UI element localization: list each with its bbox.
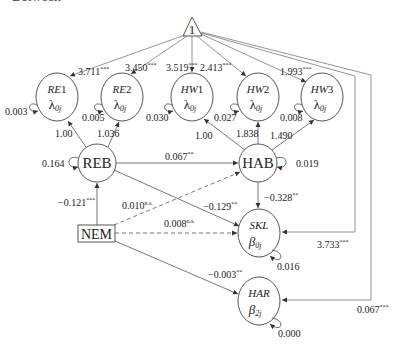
svg-text:HW3: HW3 xyxy=(310,83,334,95)
factor-loading-labels: 1.00 1.036 1.00 1.838 1.490 xyxy=(55,128,293,141)
indicator-re2: RE2 λ0j xyxy=(101,73,143,121)
observed-nem: NEM xyxy=(78,225,115,242)
sem-path-diagram: 1 3.711*** 3.450*** 3.519*** 2.413*** 1.… xyxy=(0,0,397,344)
svg-text:RE1: RE1 xyxy=(47,83,67,95)
svg-text:−0.129**: −0.129** xyxy=(203,201,237,212)
svg-text:0.008n.s.: 0.008n.s. xyxy=(164,218,195,229)
svg-text:−0.121***: −0.121*** xyxy=(58,197,95,208)
har-variance-label: 0.000 xyxy=(278,328,301,339)
svg-text:NEM: NEM xyxy=(81,227,113,242)
svg-text:HW1: HW1 xyxy=(180,83,204,95)
outcome-skl: SKL β0j xyxy=(238,209,280,257)
indicator-hw2: HW2 λ0j xyxy=(237,73,279,121)
svg-text:3.519***: 3.519*** xyxy=(166,62,198,73)
svg-text:HAR: HAR xyxy=(247,287,270,299)
svg-text:0.067***: 0.067*** xyxy=(357,304,389,315)
svg-text:0.067**: 0.067** xyxy=(165,151,194,162)
svg-text:0.008: 0.008 xyxy=(280,112,303,123)
reb-variance-label: 0.164 xyxy=(42,158,65,169)
latent-reb: REB xyxy=(78,144,116,182)
svg-text:SKL: SKL xyxy=(250,219,269,231)
svg-text:1.993***: 1.993*** xyxy=(280,66,312,77)
indicator-hw3: HW3 λ0j xyxy=(301,73,343,121)
svg-text:1.490: 1.490 xyxy=(270,130,293,141)
svg-text:0.027: 0.027 xyxy=(214,112,237,123)
svg-text:1: 1 xyxy=(189,22,196,37)
svg-text:1.00: 1.00 xyxy=(195,130,213,141)
intercept-triangle: 1 xyxy=(183,17,202,37)
svg-text:0.010n.s.: 0.010n.s. xyxy=(122,200,153,211)
svg-text:HW2: HW2 xyxy=(246,83,270,95)
svg-text:0.005: 0.005 xyxy=(82,112,105,123)
reb-variance-loop xyxy=(69,157,78,167)
svg-text:−0.328**: −0.328** xyxy=(264,192,298,203)
svg-text:2.413***: 2.413*** xyxy=(200,62,232,73)
svg-text:−0.003**: −0.003** xyxy=(208,269,242,280)
svg-text:1.838: 1.838 xyxy=(236,128,259,139)
svg-text:3.733***: 3.733*** xyxy=(317,239,349,250)
svg-text:REB: REB xyxy=(82,155,111,171)
svg-text:0.003: 0.003 xyxy=(5,106,28,117)
svg-text:1.00: 1.00 xyxy=(55,128,73,139)
svg-text:3.711***: 3.711*** xyxy=(78,66,109,77)
indicator-re1: RE1 λ0j xyxy=(36,73,78,121)
hab-variance-loop xyxy=(277,157,286,167)
svg-text:HAB: HAB xyxy=(242,155,274,171)
indicator-hw1: HW1 λ0j xyxy=(171,73,213,121)
hab-variance-label: 0.019 xyxy=(296,158,319,169)
outcome-har: HAR β2j xyxy=(238,277,280,325)
svg-text:3.450***: 3.450*** xyxy=(125,62,157,73)
latent-hab: HAB xyxy=(239,144,277,182)
svg-text:0.030: 0.030 xyxy=(146,112,169,123)
svg-text:1.036: 1.036 xyxy=(97,128,120,139)
svg-text:RE2: RE2 xyxy=(112,83,132,95)
skl-variance-label: 0.016 xyxy=(277,261,300,272)
